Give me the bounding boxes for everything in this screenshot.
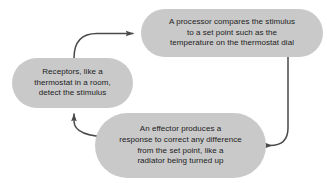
arrow-receptors-to-processor: [74, 34, 133, 59]
node-effector: An effector produces a response to corre…: [95, 113, 266, 178]
node-receptors-label: Receptors, like a thermostat in a room, …: [24, 67, 121, 99]
node-processor-label: A processor compares the stimulus to a s…: [159, 17, 305, 49]
node-processor: A processor compares the stimulus to a s…: [141, 9, 323, 57]
feedback-loop-diagram: A processor compares the stimulus to a s…: [0, 0, 327, 183]
node-receptors: Receptors, like a thermostat in a room, …: [12, 58, 133, 108]
arrow-processor-to-effector: [270, 57, 288, 146]
node-effector-label: An effector produces a response to corre…: [109, 124, 252, 167]
